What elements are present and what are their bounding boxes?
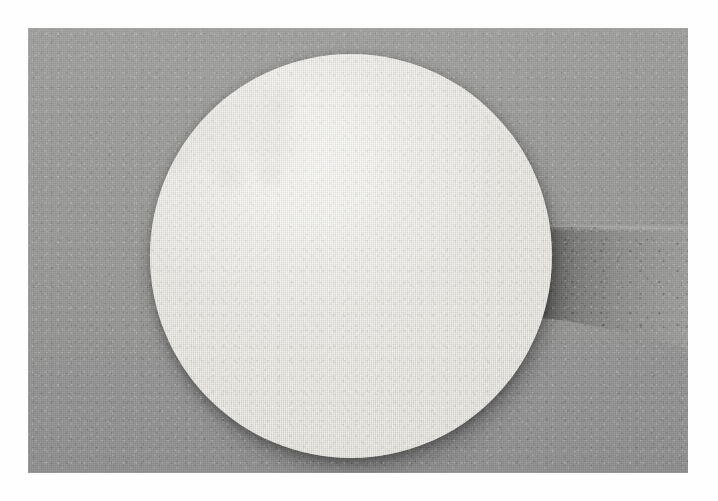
- white-disc: [150, 54, 552, 458]
- photograph: [28, 28, 688, 473]
- photo-page: Large circular off-white paper disc held…: [0, 0, 718, 501]
- disc-rim-edge: [150, 54, 552, 458]
